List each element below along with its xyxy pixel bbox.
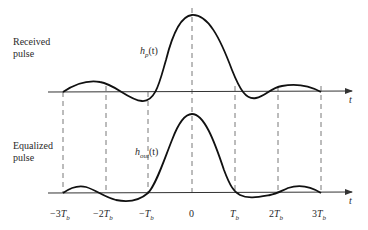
received-axis-label: t bbox=[349, 94, 352, 105]
tick-label-minus-3tb: −3Tb bbox=[50, 208, 70, 222]
tick-label-minus-tb: −Tb bbox=[139, 208, 154, 222]
pulse-diagram bbox=[0, 0, 368, 230]
sampling-dashed-lines bbox=[63, 8, 321, 193]
equalized-pulse-title: Equalized pulse bbox=[13, 140, 53, 164]
tick-label-2tb: 2Tb bbox=[269, 208, 283, 222]
received-time-axis bbox=[48, 91, 352, 92]
equalized-axis-label: t bbox=[349, 195, 352, 206]
tick-label-tb: Tb bbox=[230, 208, 239, 222]
equalized-title-line1: Equalized bbox=[13, 140, 53, 152]
equalized-time-axis bbox=[48, 192, 352, 193]
equalized-title-line2: pulse bbox=[13, 152, 53, 164]
tick-label-3tb: 3Tb bbox=[312, 208, 326, 222]
received-title-line2: pulse bbox=[13, 48, 50, 60]
received-title-line1: Received bbox=[13, 36, 50, 48]
received-function-label: hp(t) bbox=[140, 45, 158, 59]
equalized-function-label: hout(t) bbox=[135, 146, 158, 160]
received-pulse-title: Received pulse bbox=[13, 36, 50, 60]
tick-label-zero: 0 bbox=[189, 208, 194, 219]
tick-label-minus-2tb: −2Tb bbox=[93, 208, 113, 222]
